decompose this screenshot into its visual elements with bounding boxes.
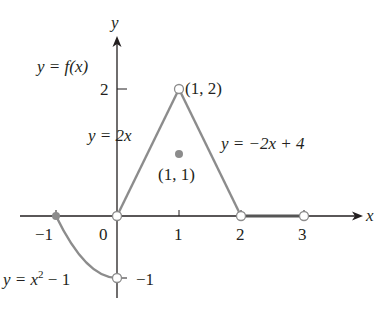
- open-point-0-neg1: [113, 274, 122, 283]
- open-point-1-2: [175, 85, 184, 94]
- piecewise-function-graph: y x y = f(x) −1 0 1 2 3 2 −1 (1, 2) (1, …: [0, 0, 381, 309]
- open-point-2-0: [237, 212, 246, 221]
- y-tick-label-2: 2: [100, 80, 109, 99]
- equation-falling-line: y = −2x + 4: [219, 134, 305, 153]
- filled-point-neg1-0: [52, 212, 60, 220]
- parabola-curve: [56, 216, 117, 278]
- y-tick-label-neg1: −1: [136, 270, 154, 289]
- equation-parabola-main: y = x: [1, 270, 39, 289]
- y-axis-label: y: [109, 13, 119, 32]
- rising-line-segment: [117, 89, 179, 216]
- equation-parabola: y = x2 − 1: [1, 268, 70, 289]
- function-label: y = f(x): [35, 57, 88, 76]
- filled-point-1-1: [175, 150, 183, 158]
- x-tick-label-0: 0: [99, 225, 108, 244]
- x-tick-label-neg1: −1: [35, 225, 53, 244]
- open-point-3-0: [300, 212, 309, 221]
- point-label-1-1: (1, 1): [158, 165, 195, 184]
- equation-parabola-tail: − 1: [44, 270, 71, 289]
- x-tick-label-1: 1: [174, 225, 183, 244]
- x-tick-label-3: 3: [298, 225, 307, 244]
- labels: y x y = f(x) −1 0 1 2 3 2 −1 (1, 2) (1, …: [1, 13, 374, 289]
- x-tick-label-2: 2: [236, 225, 245, 244]
- x-axis-label: x: [365, 206, 374, 225]
- equation-rising-line: y = 2x: [86, 126, 132, 145]
- open-point-0-0: [113, 212, 122, 221]
- point-label-1-2: (1, 2): [185, 79, 222, 98]
